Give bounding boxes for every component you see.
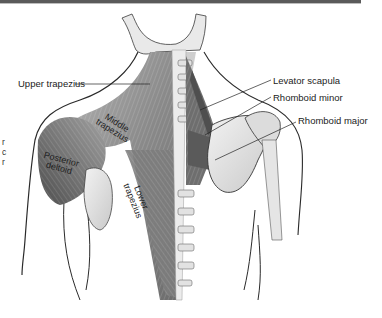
right-scapula [208, 112, 282, 240]
left-arm-line [64, 200, 80, 300]
right-arm-line [244, 210, 255, 290]
cropped-edge-text-3: r [2, 158, 5, 167]
cropped-edge-text-2: c [2, 148, 6, 157]
label-levator-scapula: Levator scapula [273, 76, 340, 86]
label-upper-trapezius: Upper trapezius [18, 79, 85, 89]
label-rhomboid-major: Rhomboid major [298, 116, 368, 126]
leader-levator-scapula [200, 80, 271, 110]
cropped-edge-text-1: r [2, 138, 5, 147]
label-rhomboid-minor: Rhomboid minor [273, 93, 343, 103]
